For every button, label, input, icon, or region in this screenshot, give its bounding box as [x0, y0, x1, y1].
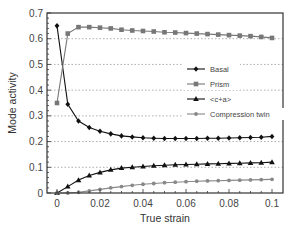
x-tick-label: 0 [54, 198, 60, 209]
data-point-prism [98, 25, 103, 30]
data-point-prism [130, 28, 135, 33]
data-point-prism [162, 30, 167, 35]
data-point-prism [259, 35, 264, 40]
data-point-prism [270, 36, 275, 41]
y-tick-label: 0 [37, 188, 43, 199]
data-point-prism [108, 26, 113, 31]
data-point-prism [65, 31, 70, 36]
data-point-compression-twin [141, 182, 145, 186]
legend-marker-compression-twin [194, 112, 198, 116]
data-point-compression-twin [184, 180, 188, 184]
data-point-basal [55, 23, 60, 29]
data-point-basal [98, 128, 103, 134]
y-tick-label: 0.2 [29, 136, 43, 147]
data-point-basal [173, 136, 178, 142]
data-point-prism [151, 29, 156, 34]
data-point-compression-twin [238, 178, 242, 182]
data-point-prism [173, 30, 178, 35]
data-point-basal [119, 133, 124, 139]
data-point-compression-twin [259, 178, 263, 182]
data-point-prism [87, 25, 92, 30]
data-point-basal [227, 135, 232, 141]
data-point-basal [151, 135, 156, 141]
legend-label-basal: Basal [210, 65, 229, 74]
y-tick-label: 0.3 [29, 110, 43, 121]
data-point-basal [259, 134, 264, 140]
data-point-compression-twin [206, 179, 210, 183]
data-point-prism [55, 101, 60, 106]
data-point-basal [248, 135, 253, 141]
legend-label-prism: Prism [210, 80, 229, 89]
y-tick-label: 0.6 [29, 33, 43, 44]
x-tick-label: 0.06 [176, 198, 196, 209]
data-point-basal [130, 134, 135, 140]
legend-label-c-a: <c+a> [210, 95, 232, 104]
data-point-compression-twin [227, 179, 231, 183]
data-point-compression-twin [109, 186, 113, 190]
y-axis-label: Mode activity [6, 72, 18, 134]
y-tick-label: 0.7 [29, 8, 43, 19]
data-point-prism [237, 33, 242, 38]
data-point-prism [119, 27, 124, 32]
data-point-basal [162, 136, 167, 142]
data-point-compression-twin [270, 177, 274, 181]
data-point-compression-twin [173, 180, 177, 184]
data-point-basal [194, 136, 199, 142]
data-point-prism [184, 31, 189, 36]
y-tick-label: 0.5 [29, 59, 43, 70]
data-point-prism [248, 34, 253, 39]
data-point-prism [216, 32, 221, 37]
data-point-compression-twin [152, 182, 156, 186]
data-point-compression-twin [249, 178, 253, 182]
data-point-compression-twin [163, 181, 167, 185]
data-point-prism [76, 25, 81, 30]
legend: BasalPrism<c+a>Compression twin [183, 63, 291, 120]
mode-activity-chart: 00.020.040.060.080.1 00.10.20.30.40.50.6… [0, 0, 294, 235]
x-tick-label: 0.02 [90, 198, 110, 209]
grid-lines [47, 39, 283, 168]
y-tick-label: 0.1 [29, 162, 43, 173]
data-point-prism [141, 29, 146, 34]
legend-label-compression-twin: Compression twin [210, 110, 270, 119]
data-point-basal [270, 134, 275, 140]
data-point-compression-twin [216, 179, 220, 183]
data-point-basal [216, 135, 221, 141]
data-point-compression-twin [195, 179, 199, 183]
data-point-compression-twin [120, 185, 124, 189]
x-axis-label: True strain [140, 212, 190, 224]
data-point-basal [237, 135, 242, 141]
x-tick-label: 0.04 [133, 198, 153, 209]
data-point-c-a [269, 159, 275, 164]
data-point-compression-twin [130, 183, 134, 187]
x-tick-label: 0.08 [219, 198, 239, 209]
data-point-basal [108, 131, 113, 137]
data-point-prism [205, 32, 210, 37]
y-tick-label: 0.4 [29, 85, 43, 96]
data-point-basal [87, 125, 92, 131]
y-tick-labels: 00.10.20.30.40.50.60.7 [29, 8, 43, 199]
data-point-basal [184, 136, 189, 142]
x-tick-labels: 00.020.040.060.080.1 [54, 198, 279, 209]
data-point-prism [227, 33, 232, 38]
data-point-basal [205, 135, 210, 141]
x-tick-label: 0.1 [265, 198, 279, 209]
data-point-basal [141, 135, 146, 141]
legend-marker-prism [194, 82, 199, 87]
data-point-prism [194, 31, 199, 36]
